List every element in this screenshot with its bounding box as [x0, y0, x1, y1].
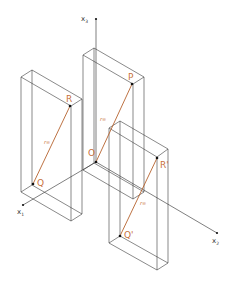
point-labels: R P O Q R' Q'	[37, 72, 169, 240]
x2-axis-end-dot	[216, 232, 218, 234]
point-Q	[32, 183, 35, 186]
label-x1-axis: x1	[17, 208, 24, 217]
label-R-prime: R'	[160, 160, 169, 170]
point-P	[131, 83, 134, 86]
vector-Qp-Rp	[120, 158, 157, 236]
vectors	[33, 84, 157, 236]
label-vector-left: r∞	[44, 139, 50, 145]
label-x3-axis: x3	[81, 15, 88, 24]
point-R	[69, 105, 72, 108]
x2-axis	[96, 162, 217, 233]
coordinate-diagram: R P O Q R' Q' r∞ r∞ r∞ x3 x1 x2	[0, 0, 231, 291]
label-Q-prime: Q'	[124, 230, 134, 240]
x3-axis-end-dot	[95, 18, 97, 20]
point-R-prime	[156, 157, 159, 160]
points	[32, 83, 159, 238]
label-R: R	[66, 94, 72, 104]
label-Q: Q	[37, 178, 44, 188]
vector-O-P	[96, 84, 132, 162]
x1-axis-end-dot	[22, 204, 24, 206]
axis-labels: x3 x1 x2	[17, 15, 219, 246]
label-vector-right: r∞	[140, 200, 146, 206]
label-x2-axis: x2	[212, 237, 219, 246]
point-Q-prime	[119, 235, 122, 238]
label-P: P	[128, 72, 134, 82]
label-O: O	[88, 148, 95, 158]
vector-Q-R	[33, 106, 70, 184]
label-vector-middle: r∞	[100, 116, 106, 122]
point-O	[95, 161, 98, 164]
